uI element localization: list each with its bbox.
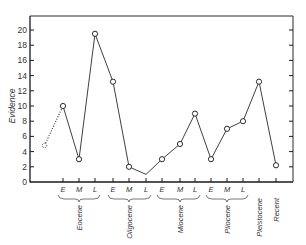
data-point-marker [192,111,197,116]
data-point-marker [159,157,164,162]
y-tick-label: 8 [22,116,27,126]
y-axis-label: Evidence [7,88,17,123]
data-point-marker [273,163,278,168]
data-point-marker [240,119,245,124]
epoch-label-miocene: Miocene [176,205,185,233]
epoch-label-pleistocene: Pleistocene [255,198,264,237]
data-point-marker [224,126,229,131]
y-tick-label: 20 [18,25,28,35]
data-point-marker [110,79,115,84]
x-label-eocene-m: M [76,185,83,194]
y-tick-label: 12 [18,86,28,96]
epoch-label-recent: Recent [272,197,281,222]
x-label-oligocene-l: L [144,185,148,194]
y-tick-label: 0 [22,177,27,187]
epoch-labels: Eocene Oligocene Miocene Pliocene Pleist… [75,197,281,239]
y-tick-label: 14 [18,71,28,81]
brace-oligocene [108,195,151,202]
data-point-marker [177,141,182,146]
x-sub-labels: E M L E M L E M L E M L [60,185,245,194]
data-point-marker [92,31,97,36]
y-tick-label: 2 [22,162,27,172]
brace-miocene [157,195,200,202]
x-label-oligocene-e: E [110,185,116,194]
brace-eocene [58,195,100,202]
x-label-oligocene-m: M [126,185,133,194]
epoch-label-oligocene: Oligocene [125,205,134,239]
epoch-braces [58,195,248,202]
evidence-line-chart: 02468101214161820 Evidence E M L E M L E… [0,0,306,245]
evidence-series-line [63,34,276,175]
data-point-marker [60,103,65,108]
y-tick-label: 6 [22,131,27,141]
brace-pliocene [206,195,248,202]
y-axis-ticks: 02468101214161820 [18,25,34,187]
data-point-marker [208,157,213,162]
extrapolated-dotted-segment [45,106,64,146]
y-tick-label: 10 [18,101,28,111]
x-label-eocene-l: L [93,185,97,194]
x-label-miocene-e: E [159,185,165,194]
epoch-label-pliocene: Pliocene [223,205,232,234]
data-point-marker [126,164,131,169]
data-point-marker [76,157,81,162]
epoch-label-eocene: Eocene [75,205,84,230]
y-tick-label: 18 [18,40,28,50]
y-tick-label: 4 [22,147,27,157]
data-point-marker [256,79,261,84]
y-tick-label: 16 [18,55,28,65]
right-axis-ticks [289,30,293,167]
x-label-miocene-l: L [193,185,197,194]
x-label-pliocene-m: M [224,185,231,194]
x-label-pliocene-e: E [208,185,214,194]
x-label-miocene-m: M [177,185,184,194]
x-label-pliocene-l: L [241,185,245,194]
x-label-eocene-e: E [60,185,66,194]
extrapolated-start-marker [42,143,47,148]
